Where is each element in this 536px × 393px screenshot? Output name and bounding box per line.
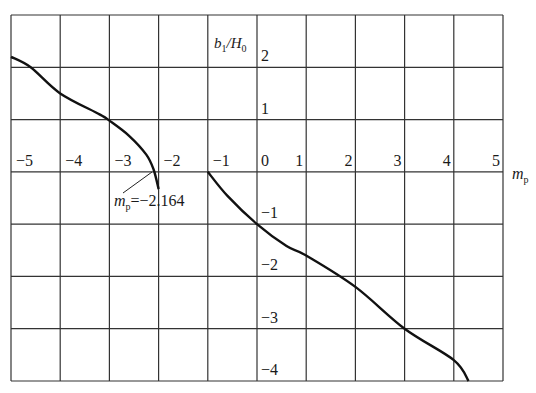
y-tick-label: −3 [260, 310, 279, 325]
x-tick-label: −5 [15, 153, 34, 168]
grid [11, 15, 503, 381]
y-tick-label: 1 [260, 101, 270, 116]
x-tick-label: 5 [491, 153, 501, 168]
x-tick-label: 2 [343, 153, 353, 168]
annotation-leader-line [123, 172, 152, 193]
y-tick-label: −1 [260, 205, 279, 220]
x-tick-label: 0 [260, 153, 270, 168]
y-axis-label: b1/H0 [213, 36, 248, 56]
x-axis-label: mp [511, 166, 530, 187]
x-tick-label: 4 [442, 153, 452, 168]
y-tick-label: −4 [260, 362, 279, 377]
curves [11, 57, 469, 381]
annotation-label: mp=−2.164 [113, 193, 186, 214]
y-tick-label: 2 [260, 48, 270, 63]
x-tick-label: 1 [294, 153, 304, 168]
x-tick-label: −1 [212, 153, 231, 168]
curve-left-branch [11, 57, 159, 189]
x-tick-label: 3 [393, 153, 403, 168]
x-tick-label: −3 [113, 153, 132, 168]
y-tick-label: −2 [260, 257, 279, 272]
x-tick-label: −4 [64, 153, 83, 168]
x-tick-label: −2 [163, 153, 182, 168]
